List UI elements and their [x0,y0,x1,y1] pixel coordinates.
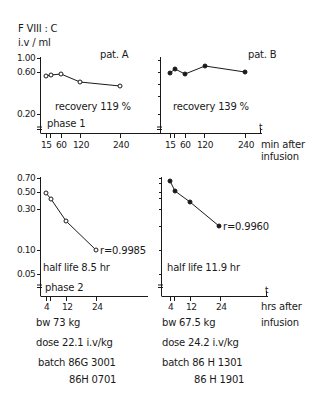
recovery-label-b: recovery 139 % [173,101,249,112]
time-arrow-bottom: t [265,285,268,296]
dose-b: dose 24.2 i.v/kg [162,337,239,348]
x-tick-24-a: 24 [92,302,103,313]
batch-b-line1: batch 86 H 1301 [162,357,242,368]
x-tick-240-b: 240 [238,140,254,151]
y-tick-0.50: 0.50 [17,187,35,198]
patient-b-label: pat. B [248,49,276,60]
x-tick-4-a: 4 [44,302,49,313]
recovery-label-a: recovery 119 % [55,101,131,112]
y-tick-0.70: 0.70 [17,173,35,184]
x-tick-60-a: 60 [56,140,67,151]
y-tick-0.05: 0.05 [17,269,35,280]
phase-2-label: phase 2 [45,282,83,293]
x-tick-240-a: 240 [113,140,129,151]
batch-b-line2: 86 H 1901 [194,374,244,385]
half-life-b: half life 11.9 hr [167,262,240,273]
bodyweight-a: bw 73 kg [36,317,80,328]
x-tick-120-b: 120 [197,140,213,151]
x-unit-bottom-line1: hrs after [261,301,302,312]
x-tick-15-b: 15 [165,140,176,151]
y-tick-0.10: 0.10 [17,245,35,256]
bodyweight-b: bw 67.5 kg [162,317,215,328]
y-tick-0.20: 0.20 [17,109,35,120]
dose-a: dose 22.1 i.v/kg [36,337,113,348]
y-tick-1.00: 1.00 [17,53,35,64]
y-tick-0.30: 0.30 [17,204,35,215]
x-tick-15-a: 15 [41,140,52,151]
phase-1-label: phase 1 [47,118,85,129]
bottom-right-axes [158,177,268,301]
y-axis-title-line1: F VIII : C [18,23,57,34]
x-tick-4-b: 4 [168,302,173,313]
patient-a-label: pat. A [100,49,128,60]
x-tick-60-b: 60 [180,140,191,151]
correlation-b: r=0.9960 [223,221,269,232]
half-life-a: half life 8.5 hr [43,262,110,273]
x-unit-top-line2: infusion [261,151,299,162]
x-tick-12-b: 12 [186,302,197,313]
correlation-a: r=0.9985 [100,245,146,256]
x-tick-24-b: 24 [216,302,227,313]
x-unit-bottom-line2: infusion [261,317,299,328]
batch-a-line1: batch 86G 3001 [38,357,116,368]
time-arrow-top: t [259,122,262,133]
batch-a-line2: 86H 0701 [69,374,116,385]
x-tick-120-a: 120 [73,140,89,151]
top-right-axes [157,57,262,138]
x-unit-top-line1: min after [261,139,305,150]
y-tick-0.60: 0.60 [17,67,35,78]
x-tick-12-a: 12 [62,302,73,313]
y-axis-title-line2: i.v / ml [18,37,51,48]
